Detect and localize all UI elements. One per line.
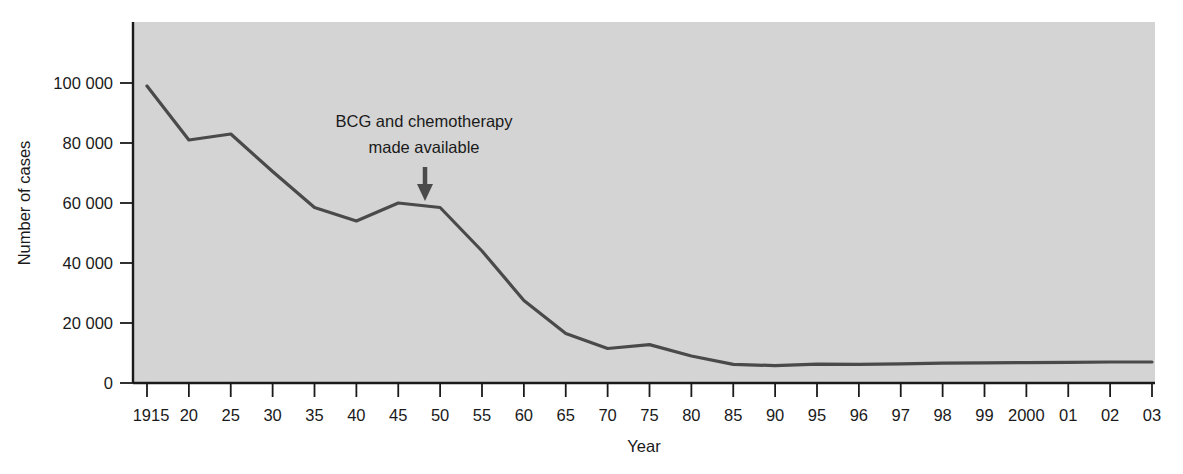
tuberculosis-cases-line-chart: 020 00040 00060 00080 000100 000 1915202… — [0, 0, 1183, 474]
annotation-text-line-1: BCG and chemotherapy — [335, 112, 513, 130]
y-tick-label: 60 000 — [63, 194, 113, 212]
x-tick-label: 2000 — [1008, 406, 1045, 424]
x-tick-label: 98 — [933, 406, 951, 424]
x-tick-label: 20 — [180, 406, 198, 424]
plot-area-background — [133, 22, 1155, 383]
x-tick-label: 65 — [557, 406, 575, 424]
x-tick-label: 03 — [1143, 406, 1161, 424]
y-axis-title: Number of cases — [15, 141, 33, 266]
x-tick-label: 85 — [724, 406, 742, 424]
x-tick-label: 25 — [222, 406, 240, 424]
y-tick-label: 0 — [104, 374, 113, 392]
x-tick-label: 02 — [1101, 406, 1119, 424]
x-axis-title: Year — [627, 437, 661, 455]
x-tick-label: 96 — [850, 406, 868, 424]
x-tick-label: 1915 — [133, 406, 170, 424]
x-tick-label: 40 — [347, 406, 365, 424]
x-axis-tick-labels: 1915202530354045505560657075808590959697… — [133, 406, 1162, 424]
x-tick-label: 97 — [892, 406, 910, 424]
x-tick-label: 35 — [305, 406, 323, 424]
x-tick-label: 60 — [515, 406, 533, 424]
annotation-text-line-2: made available — [369, 138, 480, 156]
y-tick-label: 40 000 — [63, 254, 113, 272]
y-tick-label: 20 000 — [63, 314, 113, 332]
x-tick-label: 50 — [431, 406, 449, 424]
y-tick-label: 80 000 — [63, 134, 113, 152]
x-tick-label: 75 — [640, 406, 658, 424]
y-tick-label: 100 000 — [53, 74, 113, 92]
chart-figure: 020 00040 00060 00080 000100 000 1915202… — [0, 0, 1183, 474]
x-tick-label: 30 — [263, 406, 281, 424]
x-tick-label: 01 — [1059, 406, 1077, 424]
x-tick-label: 55 — [473, 406, 491, 424]
y-axis-tick-labels: 020 00040 00060 00080 000100 000 — [53, 74, 113, 392]
x-tick-label: 99 — [975, 406, 993, 424]
x-tick-label: 90 — [766, 406, 784, 424]
x-axis-ticks — [147, 383, 1152, 397]
x-tick-label: 95 — [808, 406, 826, 424]
x-tick-label: 70 — [598, 406, 616, 424]
y-axis-ticks — [120, 83, 133, 383]
x-tick-label: 80 — [682, 406, 700, 424]
x-tick-label: 45 — [389, 406, 407, 424]
